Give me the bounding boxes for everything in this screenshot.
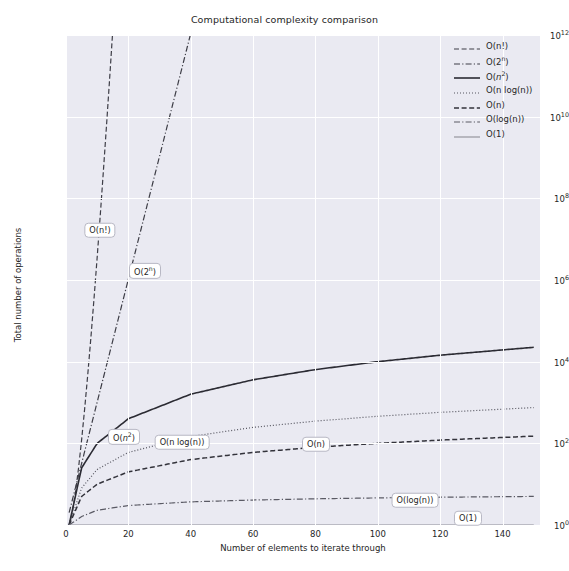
curve-label-o-n-2: O(n2) [108,429,140,445]
legend-item-label: O(n!) [486,41,508,51]
y-tick-label: 108 [509,192,569,204]
legend-item: O(n!) [454,39,564,54]
gridline-vertical [315,35,316,525]
legend-item-label: O(n log(n)) [486,85,532,95]
x-tick-label: 40 [185,529,196,539]
legend-line-icon [454,128,480,140]
gridline-vertical [440,35,441,525]
x-axis-label: Number of elements to iterate through [66,543,540,553]
gridline-vertical [253,35,254,525]
x-tick-label: 120 [432,529,448,539]
legend-item: O(n2) [454,68,564,83]
legend-item: O(1) [454,127,564,142]
gridline-horizontal [66,280,540,281]
legend: O(n!)O(2n)O(n2)O(n log(n))O(n)O(log(n))O… [452,36,566,144]
legend-line-icon [454,99,480,111]
gridline-vertical [191,35,192,525]
legend-item-label: O(2n) [486,55,509,67]
legend-item-label: O(1) [486,129,505,139]
y-tick-label: 106 [509,274,569,286]
x-tick-label: 0 [63,529,68,539]
legend-line-icon [454,69,480,81]
curve-label-o-1: O(1) [454,511,482,526]
gridline-horizontal [66,198,540,199]
legend-line-icon [454,55,480,67]
gridline-horizontal [66,362,540,363]
legend-item-label: O(log(n)) [486,114,524,124]
y-tick-label: 102 [509,437,569,449]
legend-item: O(n) [454,97,564,112]
legend-line-icon [454,40,480,52]
gridline-vertical [66,35,67,525]
page-title: Computational complexity comparison [0,14,569,25]
y-axis-label: Total number of operations [13,185,23,385]
gridline-vertical [128,35,129,525]
gridline-vertical [378,35,379,525]
y-tick-label: 100 [509,519,569,531]
x-tick-label: 60 [248,529,259,539]
legend-line-icon [454,84,480,96]
curve-label-o-n-log-n: O(n log(n)) [155,435,210,450]
chart-figure: Computational complexity comparison Tota… [0,0,569,571]
x-tick-label: 140 [494,529,510,539]
y-tick-label: 104 [509,356,569,368]
legend-line-icon [454,113,480,125]
x-tick-label: 100 [370,529,386,539]
legend-item-label: O(n) [486,100,505,110]
x-tick-label: 80 [310,529,321,539]
curve-label-o-log-n: O(log(n)) [392,493,439,508]
legend-item: O(n log(n)) [454,83,564,98]
curve-label-o-n: O(n) [302,437,330,452]
legend-item: O(log(n)) [454,112,564,127]
legend-item: O(2n) [454,54,564,69]
curve-o-n-log-n [69,408,534,525]
curve-label-o-2-n: O(2n) [129,263,161,279]
x-tick-label: 20 [123,529,134,539]
curve-label-o-n: O(n!) [84,223,115,238]
legend-item-label: O(n2) [486,70,509,82]
